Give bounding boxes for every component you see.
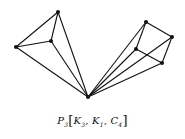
- vertex-k3-mid: [49, 39, 53, 43]
- vertex-k3-top: [56, 10, 60, 14]
- graph-caption: P3[K3, K1, C4]: [0, 112, 185, 128]
- vertex-k3-left: [14, 45, 18, 49]
- vertex-c4-left: [134, 47, 138, 51]
- vertex-c4-bottom: [160, 61, 164, 65]
- caption-item-1: K: [92, 115, 100, 126]
- graph-drawing: [0, 0, 185, 110]
- caption-sep: ,: [104, 115, 111, 126]
- caption-close-bracket: ]: [122, 113, 127, 128]
- vertex-c4-right: [170, 35, 174, 39]
- graph-vertices: [14, 10, 174, 99]
- edge-c4-bottom-c4-left: [136, 49, 162, 63]
- edge-c4-left-c4-top: [136, 22, 146, 49]
- edge-apex-c4-left: [88, 49, 136, 97]
- caption-open-bracket: [: [68, 113, 73, 128]
- edge-apex-c4-bottom: [88, 63, 162, 97]
- vertex-apex: [86, 95, 90, 99]
- edge-apex-k3-left: [16, 47, 88, 97]
- edge-apex-c4-right: [88, 37, 172, 97]
- edge-k3-left-k3-mid: [16, 41, 51, 47]
- edge-apex-c4-top: [88, 22, 146, 97]
- edge-c4-top-c4-right: [146, 22, 172, 37]
- graph-edges: [16, 12, 172, 97]
- edge-apex-k3-mid: [51, 41, 88, 97]
- vertex-c4-top: [144, 20, 148, 24]
- edge-apex-k3-top: [58, 12, 88, 97]
